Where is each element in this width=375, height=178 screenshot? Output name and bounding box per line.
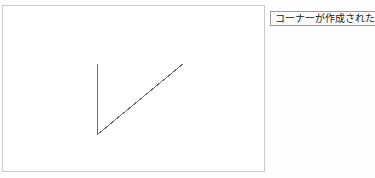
drawing-canvas[interactable] <box>2 5 265 172</box>
canvas-drawing-layer[interactable] <box>3 6 266 173</box>
status-tooltip-text: コーナーが作成された <box>275 12 375 25</box>
status-tooltip: コーナーが作成された <box>270 11 375 26</box>
corner-polyline[interactable] <box>98 64 184 135</box>
app-root: コーナーが作成された <box>0 0 375 178</box>
